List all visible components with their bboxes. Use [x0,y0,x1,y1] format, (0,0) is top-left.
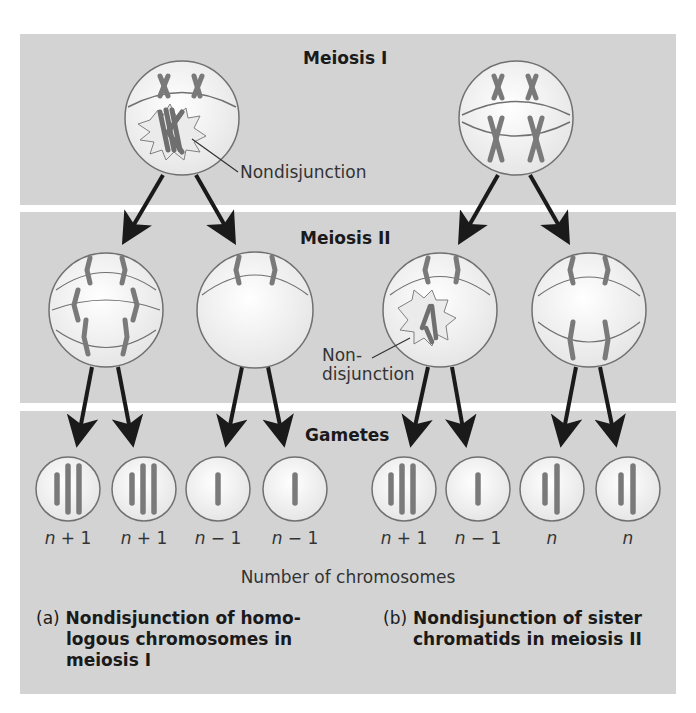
caption-a-line1: (a) Nondisjunction of homo- [36,608,301,629]
caption-b: (b) Nondisjunction of sister chromatids … [383,608,642,650]
cell-meiosis1-a [125,61,239,175]
gamete-b4 [596,457,660,521]
caption-b-line1: (b) Nondisjunction of sister [383,608,642,629]
gamete-b2 [446,457,510,521]
stage-label-meiosis-1: Meiosis I [303,48,387,68]
gamete-label-a1: n + 1 [33,528,103,548]
caption-a: (a) Nondisjunction of homo- logous chrom… [36,608,301,671]
gamete-a2 [112,457,176,521]
gamete-b3 [520,457,584,521]
caption-a-line3: meiosis I [36,650,301,671]
caption-b-line2: chromatids in meiosis II [383,629,642,650]
gamete-label-a4: n − 1 [260,528,330,548]
gamete-label-a3: n − 1 [183,528,253,548]
gamete-label-b4: n [593,528,663,548]
cell-meiosis2-a2 [197,252,313,368]
cell-meiosis2-b1 [372,253,497,367]
gamete-label-b2: n − 1 [443,528,513,548]
stage-label-gametes: Gametes [305,425,389,445]
gamete-label-b1: n + 1 [369,528,439,548]
gamete-a4 [263,457,327,521]
axis-label: Number of chromosomes [0,567,696,587]
caption-a-line2: logous chromosomes in [36,629,301,650]
annotation-nondisjunction-a: Nondisjunction [240,163,366,182]
stage-label-meiosis-2: Meiosis II [300,228,391,248]
gametes-row [36,457,660,521]
gamete-a3 [186,457,250,521]
gamete-label-b3: n [517,528,587,548]
gamete-label-a2: n + 1 [109,528,179,548]
gamete-b1 [372,457,436,521]
gamete-a1 [36,457,100,521]
cell-meiosis2-b2 [532,253,646,367]
cell-meiosis1-b [459,61,573,175]
annotation-nondisjunction-b-line1: Non- [322,346,362,365]
cell-meiosis2-a1 [49,253,163,367]
annotation-nondisjunction-b-line2: disjunction [322,365,415,384]
